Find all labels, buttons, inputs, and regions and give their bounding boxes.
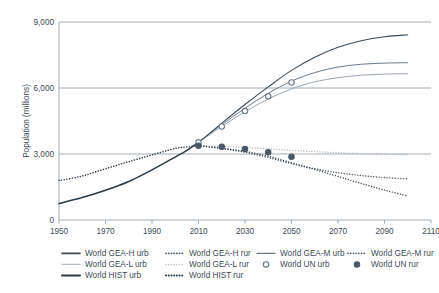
series-line-world-gea-h-urb — [199, 35, 408, 143]
series-line-world-gea-l-rur — [199, 146, 408, 155]
series-line-world-hist-rur — [59, 146, 199, 181]
x-tick-label-1950: 1950 — [50, 227, 69, 236]
data-point-world-un-urb-2030 — [242, 108, 247, 113]
y-tick-label-0: 0 — [49, 216, 54, 225]
x-tick-label-1990: 1990 — [143, 227, 162, 236]
x-tick-label-2070: 2070 — [329, 227, 348, 236]
chart-canvas: 03,0006,0009,000195019701990201020302050… — [0, 0, 439, 293]
legend-item-world-gea-h-urb[interactable]: World GEA-H urb — [62, 249, 149, 258]
y-tick-label-6000: 6,000 — [34, 84, 55, 93]
legend-label-world-gea-m-urb: World GEA-M urb — [280, 249, 345, 258]
series-line-world-gea-l-urb — [199, 74, 408, 143]
legend-item-world-gea-m-urb[interactable]: World GEA-M urb — [257, 249, 345, 258]
legend-item-world-hist-rur[interactable]: World HIST rur — [166, 271, 244, 280]
legend-marker-world-un-rur-icon — [354, 262, 359, 267]
legend-item-world-hist-urb[interactable]: World HIST urb — [62, 271, 142, 280]
x-tick-label-2010: 2010 — [189, 227, 208, 236]
data-point-world-un-urb-2040 — [266, 94, 271, 99]
data-point-world-un-rur-2030 — [242, 146, 247, 151]
x-tick-label-2110: 2110 — [422, 227, 439, 236]
x-tick-label-2090: 2090 — [375, 227, 394, 236]
legend-item-world-un-rur[interactable]: World UN rur — [354, 260, 419, 269]
legend-label-world-gea-l-rur: World GEA-L rur — [189, 260, 249, 269]
data-point-world-un-rur-2020 — [219, 144, 224, 149]
y-tick-label-3000: 3,000 — [34, 150, 55, 159]
data-point-world-un-rur-2040 — [266, 150, 271, 155]
x-tick-label-2050: 2050 — [282, 227, 301, 236]
legend-label-world-gea-l-urb: World GEA-L urb — [85, 260, 147, 269]
legend-label-world-un-urb: World UN urb — [280, 260, 330, 269]
data-point-world-un-urb-2020 — [219, 124, 224, 129]
data-point-world-un-rur-2050 — [289, 154, 294, 159]
population-projection-chart: 03,0006,0009,000195019701990201020302050… — [0, 0, 439, 293]
legend-item-world-gea-l-rur[interactable]: World GEA-L rur — [166, 260, 249, 269]
legend-label-world-un-rur: World UN rur — [371, 260, 419, 269]
x-tick-label-2030: 2030 — [236, 227, 255, 236]
legend-label-world-gea-h-urb: World GEA-H urb — [85, 249, 149, 258]
legend-item-world-un-urb[interactable]: World UN urb — [263, 260, 330, 269]
data-point-world-un-rur-2010 — [196, 143, 201, 148]
x-tick-label-1970: 1970 — [96, 227, 115, 236]
legend-label-world-hist-rur: World HIST rur — [189, 271, 244, 280]
series-line-world-hist-urb — [59, 142, 199, 203]
legend-label-world-gea-m-rur: World GEA-M rur — [371, 249, 434, 258]
legend-label-world-gea-h-rur: World GEA-H rur — [189, 249, 251, 258]
series-markers-world-un-urb — [196, 80, 294, 145]
legend-item-world-gea-m-rur[interactable]: World GEA-M rur — [348, 249, 434, 258]
y-axis-title: Population (millions) — [22, 84, 31, 158]
legend-item-world-gea-h-rur[interactable]: World GEA-H rur — [166, 249, 251, 258]
y-tick-label-9000: 9,000 — [34, 18, 55, 27]
data-point-world-un-urb-2050 — [289, 80, 294, 85]
series-line-world-gea-h-rur — [199, 146, 408, 196]
series-markers-world-un-rur — [196, 143, 294, 159]
legend-item-world-gea-l-urb[interactable]: World GEA-L urb — [62, 260, 147, 269]
legend-label-world-hist-urb: World HIST urb — [85, 271, 142, 280]
legend-marker-world-un-urb-icon — [263, 262, 268, 267]
